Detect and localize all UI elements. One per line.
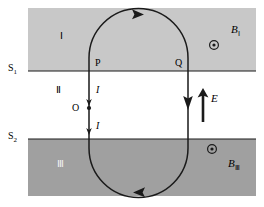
B-III-label-text: B (228, 157, 235, 169)
E-field-label: E (211, 93, 218, 104)
region-III-label: Ⅲ (57, 159, 64, 169)
B-I-label-subscript: Ⅰ (238, 30, 240, 38)
figure-canvas (0, 0, 264, 207)
boundary-label-S2: S2 (8, 131, 17, 144)
point-P-label: P (95, 58, 101, 68)
B-I-label: BⅠ (231, 24, 240, 38)
boundary-label-S2-subscript: 2 (14, 136, 18, 144)
E-field-arrow-icon (198, 88, 209, 122)
B-III-label: BⅢ (228, 158, 240, 172)
current-upper-label: I (96, 85, 99, 95)
point-O-label: O (72, 103, 79, 113)
current-lower-label: I (96, 121, 99, 131)
boundary-label-S1-subscript: 1 (14, 68, 18, 76)
physics-figure: Ⅰ Ⅱ Ⅲ S1 S2 P Q O I I BⅠ BⅢ E (0, 0, 264, 207)
point-O-marker (87, 106, 91, 110)
B-I-label-text: B (231, 23, 238, 35)
B-III-label-subscript: Ⅲ (235, 164, 240, 172)
region-I-label: Ⅰ (60, 31, 63, 41)
boundary-label-S1: S1 (8, 63, 17, 76)
region-II-label: Ⅱ (56, 85, 61, 95)
point-Q-label: Q (175, 58, 182, 68)
